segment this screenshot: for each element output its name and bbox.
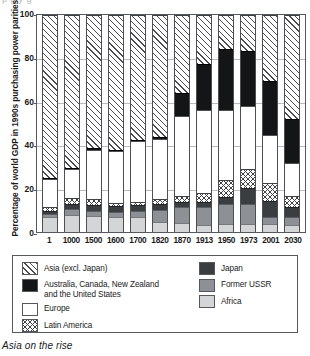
bar-column-1500 <box>83 15 105 232</box>
legend-label: Japan <box>221 262 243 273</box>
legend-item: Africa <box>199 295 294 308</box>
bar-segment <box>175 93 189 116</box>
x-tick-1870: 1870 <box>171 235 193 249</box>
legend-label: Former USSR <box>221 279 271 290</box>
legend-swatch-solid-light-gray <box>199 295 215 308</box>
bar-column-1820 <box>149 15 171 232</box>
bar-segment <box>65 169 79 198</box>
legend-label: Asia (excl. Japan) <box>44 262 107 273</box>
y-tick-80: 80 <box>12 53 34 63</box>
x-tick-1820: 1820 <box>149 235 171 249</box>
stacked-bar <box>86 15 102 232</box>
x-tick-1600: 1600 <box>105 235 127 249</box>
legend-swatch-solid-dark-gray <box>199 262 215 275</box>
bar-segment <box>43 179 57 207</box>
bar-segment <box>285 196 299 207</box>
legend-label: Australia, Canada, New Zealandand the Un… <box>44 279 159 300</box>
stacked-bar <box>108 15 124 232</box>
bar-column-2001 <box>259 15 281 232</box>
bar-segment <box>219 180 233 197</box>
bar-column-1870 <box>171 15 193 232</box>
bar-segment <box>241 169 255 187</box>
y-tick-20: 20 <box>12 184 34 194</box>
x-tick-1973: 1973 <box>238 235 260 249</box>
bar-segment <box>109 217 123 232</box>
bar-segment <box>219 49 233 111</box>
bar-segment <box>175 207 189 223</box>
bar-segment <box>263 135 277 183</box>
bar-segment <box>87 216 101 232</box>
x-tick-1700: 1700 <box>127 235 149 249</box>
bar-segment <box>197 15 211 64</box>
y-tick-40: 40 <box>12 140 34 150</box>
bar-segment <box>65 15 79 168</box>
x-tick-2001: 2001 <box>260 235 282 249</box>
stacked-bar <box>218 15 234 232</box>
legend-label: Europe <box>44 303 70 314</box>
bar-segment <box>43 217 57 232</box>
x-tick-2030: 2030 <box>282 235 304 249</box>
chart-legend: Asia (excl. Japan)Australia, Canada, New… <box>12 255 298 333</box>
x-tick-1000: 1000 <box>60 235 82 249</box>
stacked-bar <box>240 15 256 232</box>
bar-segment <box>197 193 211 202</box>
y-tick-100: 100 <box>12 9 34 19</box>
bar-segment <box>131 141 145 202</box>
bar-segment <box>219 15 233 49</box>
bar-column-2030 <box>281 15 303 232</box>
legend-label: Africa <box>221 295 241 306</box>
bar-segment <box>87 15 101 148</box>
stacked-bar <box>64 15 80 232</box>
legend-swatch-diagonal-hatch <box>22 262 38 275</box>
stacked-bar <box>196 15 212 232</box>
bar-column-1700 <box>127 15 149 232</box>
legend-swatch-dotted <box>22 303 38 316</box>
bar-segment <box>43 15 57 178</box>
bar-segment <box>241 224 255 232</box>
x-tick-1913: 1913 <box>193 235 215 249</box>
bar-column-1600 <box>105 15 127 232</box>
legend-item: Latin America <box>22 319 197 332</box>
bar-column-1000 <box>61 15 83 232</box>
bar-segment <box>197 207 211 225</box>
stacked-bar <box>284 15 300 232</box>
legend-item: Asia (excl. Japan) <box>22 262 197 275</box>
stacked-bar <box>262 15 278 232</box>
bar-segment <box>263 217 277 225</box>
legend-item: Former USSR <box>199 279 294 292</box>
bar-segment <box>153 15 167 137</box>
y-tick-60: 60 <box>12 97 34 107</box>
y-tick-0: 0 <box>12 228 34 238</box>
stacked-bar <box>152 15 168 232</box>
legend-column-left: Asia (excl. Japan)Australia, Canada, New… <box>22 262 197 336</box>
bar-segment <box>153 210 167 222</box>
bar-segment <box>197 225 211 232</box>
bar-segment <box>263 183 277 200</box>
stacked-bar <box>42 15 58 232</box>
legend-label-line2: and the United States <box>44 290 159 300</box>
bar-segment <box>285 163 299 197</box>
bar-segment <box>87 150 101 200</box>
bar-segment <box>65 215 79 232</box>
bar-column-1 <box>39 15 61 232</box>
bar-segment <box>241 188 255 204</box>
bar-segment <box>285 217 299 226</box>
legend-label: Latin America <box>44 319 92 330</box>
bar-segment <box>197 110 211 192</box>
x-tick-1500: 1500 <box>82 235 104 249</box>
clipped-header-text: p g y g <box>0 0 310 7</box>
bar-column-1913 <box>193 15 215 232</box>
legend-item: Europe <box>22 303 197 316</box>
bar-segment <box>175 223 189 232</box>
bar-segment <box>109 15 123 150</box>
x-tick-1950: 1950 <box>215 235 237 249</box>
bar-segment <box>175 116 189 196</box>
bar-segment <box>131 217 145 232</box>
stacked-bar <box>174 15 190 232</box>
bar-segment <box>175 15 189 93</box>
bar-segment <box>285 119 299 162</box>
figure-caption: Asia on the rise <box>2 340 73 351</box>
legend-item: Japan <box>199 262 294 275</box>
bar-segment <box>285 15 299 119</box>
bar-segment <box>153 222 167 232</box>
